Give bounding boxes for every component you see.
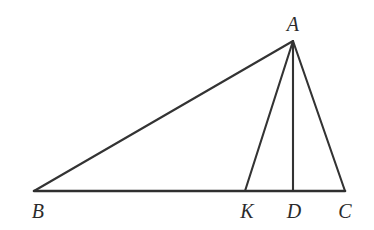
vertex-label-c: C xyxy=(338,201,352,221)
segment-ac xyxy=(293,41,345,191)
triangle-diagram-canvas xyxy=(0,0,374,230)
vertex-label-k: K xyxy=(240,201,254,221)
vertex-label-a: A xyxy=(287,14,299,34)
segment-ab xyxy=(34,41,293,191)
vertex-label-b: B xyxy=(32,201,44,221)
geometry-figure: A B K D C xyxy=(0,0,374,230)
vertex-label-d: D xyxy=(287,201,302,221)
